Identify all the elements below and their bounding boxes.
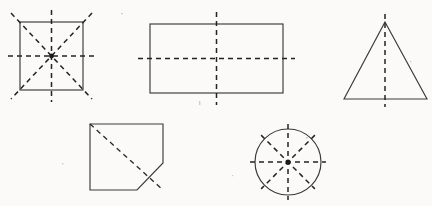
circle-center-point [285,159,290,164]
figure-circle [250,124,326,200]
square-center-point [49,54,54,59]
symmetry-worksheet [0,0,432,206]
figures-canvas [0,0,432,206]
